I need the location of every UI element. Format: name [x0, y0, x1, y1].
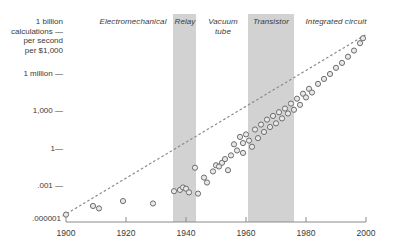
data-point: [243, 132, 248, 137]
data-point: [321, 76, 326, 81]
data-point: [240, 150, 245, 155]
data-point: [291, 107, 296, 112]
data-point: [120, 198, 125, 203]
data-point: [288, 101, 293, 106]
data-point: [360, 36, 365, 41]
data-point: [225, 168, 230, 173]
data-point: [192, 165, 197, 170]
x-axis-ticks: [66, 217, 366, 222]
trend-line: [63, 35, 366, 216]
data-point: [297, 102, 302, 107]
data-point: [264, 117, 269, 122]
data-point: [186, 190, 191, 195]
data-point: [258, 122, 263, 127]
data-point: [63, 212, 68, 217]
data-point: [282, 106, 287, 111]
data-point: [303, 95, 308, 100]
data-point: [339, 60, 344, 65]
data-point: [171, 189, 176, 194]
chart-container: Electromechanical Relay Vacuum tube Tran…: [0, 0, 399, 251]
data-point: [240, 140, 245, 145]
data-point: [249, 144, 254, 149]
data-point: [231, 142, 236, 147]
data-point: [345, 54, 350, 59]
data-point: [276, 110, 281, 115]
data-point: [222, 157, 227, 162]
data-point: [315, 81, 320, 86]
data-point: [279, 116, 284, 121]
data-point: [255, 136, 260, 141]
data-point: [228, 153, 233, 158]
data-point: [150, 201, 155, 206]
data-point: [273, 121, 278, 126]
data-point: [267, 124, 272, 129]
data-point: [237, 134, 242, 139]
data-point: [195, 191, 200, 196]
data-point: [294, 96, 299, 101]
data-point: [204, 180, 209, 185]
data-point: [210, 169, 215, 174]
data-point: [246, 138, 251, 143]
data-point: [201, 175, 206, 180]
data-point: [309, 90, 314, 95]
axis-group: [66, 217, 366, 222]
data-point: [252, 127, 257, 132]
plot-area: [0, 0, 399, 251]
data-point: [285, 111, 290, 116]
data-point: [90, 203, 95, 208]
data-point: [96, 206, 101, 211]
data-point: [357, 41, 362, 46]
data-point: [270, 113, 275, 118]
data-point: [351, 48, 356, 53]
data-point: [234, 148, 239, 153]
data-point: [327, 71, 332, 76]
data-point: [333, 65, 338, 70]
data-point: [261, 129, 266, 134]
data-points-group: [63, 36, 365, 218]
